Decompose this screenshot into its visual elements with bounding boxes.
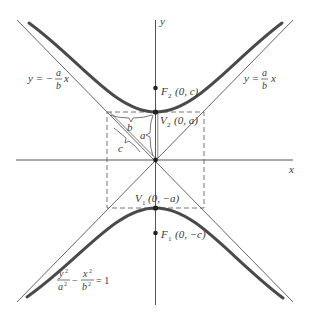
- svg-text:2: 2: [65, 268, 68, 274]
- label-c: c: [118, 142, 123, 154]
- svg-text:a: a: [262, 67, 267, 78]
- vertex-v2-point: [153, 109, 158, 114]
- svg-text:F: F: [160, 85, 168, 97]
- svg-text:= 1: = 1: [96, 275, 109, 286]
- center-point: [153, 158, 158, 163]
- hyperbola-diagram: y x F 2 (0, c) V 2 (0, a) V 1 (0, −a) F …: [0, 0, 312, 313]
- vertex-v1-point: [153, 205, 158, 210]
- svg-text:(0, −a): (0, −a): [148, 192, 180, 205]
- svg-text:x: x: [270, 72, 276, 84]
- svg-text:2: 2: [64, 281, 67, 287]
- asymptote-left-label: y = − a b x: [27, 67, 69, 91]
- svg-text:(0, a): (0, a): [174, 114, 198, 127]
- label-f1: F 1 (0, −c): [160, 228, 206, 243]
- label-v2: V 2 (0, a): [160, 114, 198, 129]
- svg-text:1: 1: [142, 199, 146, 207]
- svg-text:2: 2: [168, 92, 172, 100]
- svg-text:F: F: [160, 228, 168, 240]
- svg-text:−: −: [72, 275, 78, 286]
- svg-text:b: b: [262, 80, 267, 91]
- svg-text:y = −: y = −: [27, 72, 53, 84]
- svg-text:2: 2: [89, 268, 92, 274]
- label-v1: V 1 (0, −a): [135, 192, 180, 207]
- label-b: b: [127, 121, 133, 133]
- y-axis-label: y: [159, 15, 165, 27]
- svg-text:x: x: [63, 72, 69, 84]
- svg-text:x: x: [82, 268, 88, 279]
- svg-text:a: a: [58, 281, 63, 292]
- svg-text:a: a: [56, 67, 61, 78]
- svg-text:2: 2: [167, 121, 171, 129]
- svg-text:2: 2: [88, 281, 91, 287]
- focus-f1-point: [153, 231, 158, 236]
- svg-text:y =: y =: [243, 72, 259, 84]
- svg-text:b: b: [82, 281, 87, 292]
- focus-f2-point: [153, 86, 158, 91]
- svg-text:1: 1: [168, 235, 172, 243]
- hyperbola-equation: y 2 a 2 − x 2 b 2 = 1: [57, 268, 109, 292]
- svg-text:(0, c): (0, c): [175, 85, 199, 98]
- label-a: a: [140, 129, 146, 141]
- asymptote-right-label: y = a b x: [243, 67, 276, 91]
- svg-text:(0, −c): (0, −c): [175, 228, 206, 241]
- svg-text:b: b: [56, 80, 61, 91]
- x-axis-label: x: [288, 163, 294, 175]
- svg-text:y: y: [58, 268, 64, 279]
